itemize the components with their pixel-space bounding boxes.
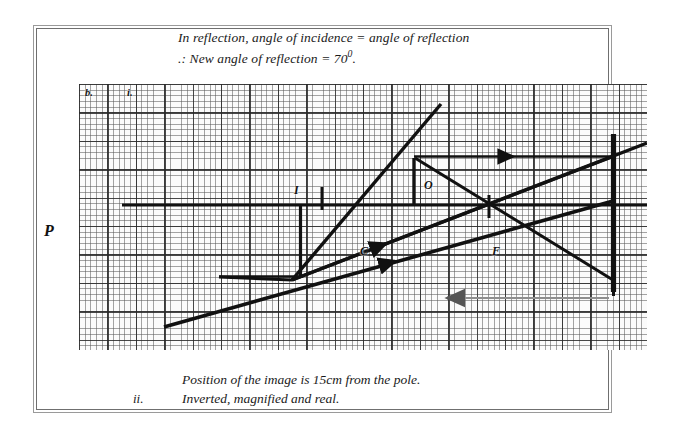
- graph-paper: b. i. I O C F: [79, 84, 647, 350]
- ray-lower-to-mirror: [292, 280, 613, 286]
- note-new-angle-text: .: New angle of reflection = 70: [178, 51, 348, 66]
- page-label-p: P: [44, 222, 54, 240]
- ray-reflected-lower: [415, 158, 613, 280]
- answer-nature-line: Inverted, magnified and real.: [182, 391, 339, 407]
- diagram-part-label: b.: [85, 87, 93, 98]
- answer-position-line: Position of the image is 15cm from the p…: [182, 372, 420, 388]
- note-new-angle: .: New angle of reflection = 700.: [178, 48, 356, 67]
- page-canvas: In reflection, angle of incidence = angl…: [0, 0, 679, 443]
- ray-diagram-svg: [79, 84, 647, 350]
- ray-through-centre: [292, 143, 647, 280]
- label-centre-c: C: [360, 244, 368, 259]
- note-reflection-law: In reflection, angle of incidence = angl…: [178, 30, 469, 46]
- diagram-item-label: i.: [127, 87, 133, 98]
- label-object-o: O: [424, 178, 433, 193]
- label-focus-f: F: [492, 244, 500, 259]
- note-new-angle-period: .: [353, 51, 356, 66]
- label-image-i: I: [294, 183, 299, 198]
- answer-marker-ii: ii.: [133, 391, 143, 407]
